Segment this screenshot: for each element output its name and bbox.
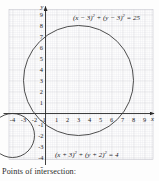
x-axis-name: x	[150, 115, 154, 122]
y-tick--4: -4	[38, 154, 44, 161]
y-tick-9: 9	[40, 11, 43, 18]
eq-big-part2: (y − 3)	[103, 14, 123, 22]
y-tick--2: -2	[38, 132, 43, 139]
y-axis-name: y	[40, 3, 44, 10]
eq-small-part2: (y + 2)	[85, 151, 105, 159]
eq-small-part1: (x + 3)	[55, 151, 75, 159]
y-tick-1: 1	[40, 99, 43, 106]
x-tick--2: -2	[32, 116, 37, 123]
eq-big-eq: = 25	[125, 14, 141, 22]
x-tick-3: 3	[77, 116, 80, 123]
equation-label-big-circle: (x − 3)2 + (y − 3)2 = 25	[73, 13, 141, 22]
eq-big-plus: +	[95, 14, 103, 22]
graph-svg: x y -4 -3 -2 -1 1 2 3 4 5 6 7 8 9 9 8	[0, 0, 159, 168]
figure-page: x y -4 -3 -2 -1 1 2 3 4 5 6 7 8 9 9 8	[0, 0, 159, 181]
eq-big-part1: (x − 3)	[73, 14, 93, 22]
x-tick-5: 5	[99, 116, 102, 123]
eq-small-plus: +	[77, 151, 85, 159]
eq-small-eq: = 4	[107, 151, 119, 159]
grid-major	[9, 10, 153, 160]
y-tick-8: 8	[40, 22, 43, 29]
y-tick--3: -3	[38, 143, 43, 150]
y-tick-3: 3	[40, 77, 43, 84]
y-tick-6: 6	[40, 44, 43, 51]
y-tick-5: 5	[40, 55, 43, 62]
x-tick-2: 2	[66, 116, 69, 123]
x-tick-1: 1	[55, 116, 58, 123]
x-tick-8: 8	[132, 116, 135, 123]
coordinate-graph: x y -4 -3 -2 -1 1 2 3 4 5 6 7 8 9 9 8	[0, 0, 159, 168]
x-tick--4: -4	[10, 116, 16, 123]
x-tick-6: 6	[110, 116, 113, 123]
caption-points-of-intersection: Points of intersection:	[2, 167, 157, 177]
equation-label-small-circle: (x + 3)2 + (y + 2)2 = 4	[55, 150, 119, 159]
x-tick-9: 9	[143, 116, 146, 123]
y-tick-2: 2	[40, 88, 43, 95]
